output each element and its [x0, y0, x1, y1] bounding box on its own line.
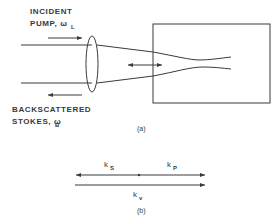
- stokes-label-line2: STOKES, ω: [12, 117, 61, 126]
- stimulated-brillouin-scattering-diagram: INCIDENT PUMP, ω L BACKSCATTERED STOKES,…: [0, 0, 280, 222]
- ks-label: k: [104, 160, 109, 169]
- caption-a: (a): [137, 125, 146, 133]
- kv-label: k: [133, 190, 138, 199]
- origin-dot: [138, 174, 140, 176]
- stokes-subscript: B: [55, 122, 60, 128]
- part-b-wavevectors: k S k P k v (b): [75, 160, 205, 215]
- part-a-setup: INCIDENT PUMP, ω L BACKSCATTERED STOKES,…: [12, 7, 270, 133]
- kp-label: k: [167, 160, 172, 169]
- caption-b: (b): [137, 207, 146, 215]
- ks-subscript: S: [110, 165, 114, 171]
- beam-waist-top: [153, 52, 231, 60]
- kp-subscript: P: [173, 165, 177, 171]
- pump-subscript: L: [71, 24, 75, 30]
- stokes-label-line1: BACKSCATTERED: [12, 105, 91, 114]
- lens-icon: [86, 36, 98, 92]
- focus-top-line: [97, 45, 153, 52]
- pump-label-line1: INCIDENT: [30, 7, 73, 16]
- pump-label-line2: PUMP, ω: [30, 19, 68, 28]
- beam-waist-bottom: [153, 67, 231, 76]
- sample-cell-box: [153, 24, 270, 103]
- kv-subscript: v: [139, 195, 143, 201]
- focus-bottom-line: [97, 76, 153, 83]
